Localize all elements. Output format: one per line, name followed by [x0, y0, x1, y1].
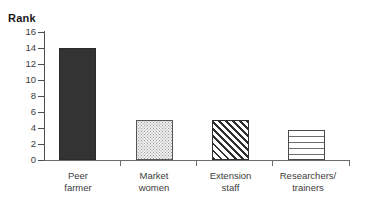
x-axis-category-label-peer-farmer: Peer farmer — [40, 170, 116, 194]
y-axis-tick-label: 2 — [2, 139, 36, 149]
y-axis-tick-label: 14 — [2, 43, 36, 53]
y-axis-tick-label-wrap: 4 — [0, 123, 36, 133]
y-axis-tick — [38, 64, 44, 65]
y-axis-tick-label: 12 — [2, 59, 36, 69]
bar-chart: Rank 16 14 12 10 8 6 4 — [0, 0, 372, 205]
x-axis-category-label-researchers-trainers: Researchers/ trainers — [267, 170, 349, 194]
x-axis-line — [44, 160, 350, 161]
bar-market-women — [136, 120, 173, 160]
y-axis-tick — [38, 80, 44, 81]
bar-peer-farmer — [59, 48, 96, 160]
y-axis-tick-label: 8 — [2, 91, 36, 101]
category-line-1: Peer — [40, 170, 116, 182]
y-axis-tick-label-wrap: 16 — [0, 27, 36, 37]
x-axis-tick — [120, 161, 121, 166]
plot-area: 16 14 12 10 8 6 4 2 0 — [0, 0, 372, 205]
category-line-2: trainers — [267, 182, 349, 194]
y-axis-tick — [38, 128, 44, 129]
y-axis-tick-label-wrap: 2 — [0, 139, 36, 149]
x-axis-category-label-extension-staff: Extension staff — [192, 170, 269, 194]
y-axis-tick — [38, 96, 44, 97]
category-line-2: women — [116, 182, 192, 194]
y-axis-tick-label-wrap: 6 — [0, 107, 36, 117]
bar-researchers-trainers — [288, 130, 325, 160]
bar-extension-staff — [212, 120, 249, 160]
y-axis-tick-label: 0 — [2, 155, 36, 165]
category-line-1: Researchers/ — [267, 170, 349, 182]
x-axis-tick — [196, 161, 197, 166]
y-axis-tick — [38, 32, 44, 33]
category-line-2: staff — [192, 182, 269, 194]
y-axis-tick — [38, 160, 44, 161]
x-axis-tick — [272, 161, 273, 166]
y-axis-tick-label: 10 — [2, 75, 36, 85]
y-axis-tick-label-wrap: 10 — [0, 75, 36, 85]
y-axis-tick — [38, 48, 44, 49]
category-line-1: Market — [116, 170, 192, 182]
y-axis-tick-label-wrap: 14 — [0, 43, 36, 53]
y-axis-tick-label-wrap: 0 — [0, 155, 36, 165]
y-axis-line — [44, 31, 45, 161]
y-axis-tick-label-wrap: 12 — [0, 59, 36, 69]
y-axis-tick — [38, 144, 44, 145]
category-line-2: farmer — [40, 182, 116, 194]
x-axis-category-label-market-women: Market women — [116, 170, 192, 194]
y-axis-tick-label: 16 — [2, 27, 36, 37]
y-axis-tick-label-wrap: 8 — [0, 91, 36, 101]
category-line-1: Extension — [192, 170, 269, 182]
x-axis-tick — [349, 161, 350, 166]
y-axis-tick-label: 4 — [2, 123, 36, 133]
y-axis-tick-label: 6 — [2, 107, 36, 117]
y-axis-tick — [38, 112, 44, 113]
